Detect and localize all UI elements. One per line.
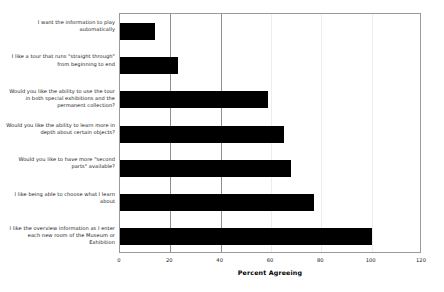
bar-row <box>120 91 422 108</box>
x-tick-label-100: 100 <box>366 257 376 263</box>
bar <box>120 228 372 245</box>
category-label: Would you like the ability to use the to… <box>3 88 115 110</box>
category-label: Would you like to have more "second part… <box>3 156 115 170</box>
x-tick-label-60: 60 <box>267 257 274 263</box>
x-tick-label-120: 120 <box>416 257 426 263</box>
bar <box>120 160 291 177</box>
bar <box>120 23 155 40</box>
category-label: Would you like the ability to learn more… <box>3 122 115 136</box>
bar-row <box>120 23 422 40</box>
bar-chart: I want the information to play automatic… <box>0 0 444 292</box>
bar-row <box>120 194 422 211</box>
x-tick-label-0: 0 <box>117 257 120 263</box>
bar <box>120 91 268 108</box>
bar-row <box>120 228 422 245</box>
x-tick-label-40: 40 <box>216 257 223 263</box>
x-tick-label-80: 80 <box>317 257 324 263</box>
category-label: I like the overview information as I ent… <box>3 225 115 247</box>
category-label: I like a tour that runs "straight throug… <box>3 53 115 67</box>
bar-row <box>120 57 422 74</box>
x-tick-label-20: 20 <box>166 257 173 263</box>
bar-row <box>120 160 422 177</box>
x-axis-title: Percent Agreeing <box>119 269 421 276</box>
bar <box>120 126 284 143</box>
category-label: I like being able to choose what I learn… <box>3 191 115 205</box>
bar-row <box>120 126 422 143</box>
bar <box>120 57 178 74</box>
category-label: I want the information to play automatic… <box>3 19 115 33</box>
plot-area <box>119 13 421 253</box>
bar <box>120 194 314 211</box>
